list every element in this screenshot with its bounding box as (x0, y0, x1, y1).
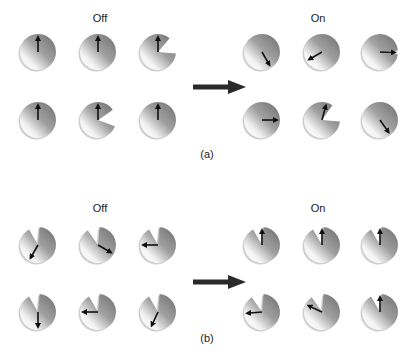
panel-b-on-disc-3 (361, 227, 398, 264)
panel-a-off-disc-4 (19, 102, 57, 140)
panel-a-on-disc-5 (303, 102, 340, 140)
panel-a-caption: (a) (200, 148, 213, 160)
panel-a-off-disc-3 (139, 34, 176, 72)
panel-a-on-disc-2 (303, 34, 341, 72)
panel-a-on-label: On (311, 12, 326, 24)
panel-b-off-disc-3 (139, 227, 176, 264)
transition-arrow-icon (193, 80, 246, 94)
panel-b-off-disc-2 (79, 227, 116, 264)
panel-b-on-disc-6 (361, 294, 399, 331)
panel-b-on-disc-2 (303, 227, 341, 264)
panel-a-on-disc-4 (243, 102, 281, 140)
direction-arrow-icon (380, 52, 395, 53)
panel-a-off-label: Off (93, 12, 107, 24)
figure: Off On (a) Off On (b) (0, 0, 414, 357)
panel-b-off-label: Off (93, 202, 107, 214)
panel-a-on-disc-3 (361, 34, 398, 72)
transition-arrow-icon (193, 275, 246, 289)
panel-a-on-disc-1 (243, 34, 281, 72)
panel-a-off-disc-5 (78, 102, 114, 140)
panel-b-on-disc-4 (243, 294, 281, 331)
panel-b-caption: (b) (200, 332, 213, 344)
panel-b-on-disc-5 (303, 294, 341, 331)
panel-b-off-disc-6 (138, 294, 176, 331)
panel-b-on-label: On (311, 202, 326, 214)
panel-b-on-disc-1 (243, 227, 281, 264)
panel-a-off-disc-1 (19, 34, 57, 72)
panel-a-off-disc-6 (139, 102, 177, 140)
panel-b-off-disc-1 (19, 227, 56, 264)
panel-b-off-disc-5 (78, 294, 116, 331)
panel-a-off-disc-2 (79, 34, 117, 72)
panel-b-off-disc-4 (18, 294, 56, 331)
disc-diagram-canvas (0, 0, 414, 357)
panel-a-on-disc-6 (361, 102, 399, 140)
